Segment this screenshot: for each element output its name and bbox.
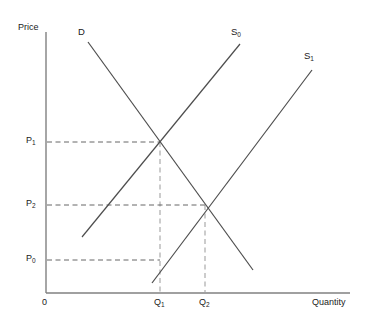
curve-label-s1: S1 — [304, 51, 314, 61]
quantity-tick-q1-text: Q — [154, 297, 161, 307]
quantity-tick-q2: Q2 — [199, 298, 210, 307]
supply-curve-s1 — [152, 70, 312, 283]
price-tick-p1: P1 — [26, 136, 36, 145]
quantity-tick-q2-text: Q — [199, 297, 206, 307]
price-tick-p2-sub: 2 — [32, 202, 36, 209]
demand-curve — [88, 42, 253, 270]
curve-label-d-text: D — [78, 26, 85, 37]
supply-curve-s0 — [82, 44, 240, 237]
curve-label-s1-sub: 1 — [310, 55, 314, 62]
y-axis-title: Price — [18, 23, 39, 32]
x-axis-title: Quantity — [312, 298, 346, 307]
price-tick-p1-sub: 1 — [32, 139, 36, 146]
quantity-tick-q2-sub: 2 — [206, 301, 210, 308]
plot-area — [0, 0, 370, 325]
curve-label-s0-sub: 0 — [237, 31, 241, 38]
origin-label: 0 — [42, 298, 47, 307]
price-tick-p0: P0 — [26, 254, 36, 263]
curve-label-d: D — [78, 27, 85, 37]
price-tick-p2: P2 — [26, 199, 36, 208]
quantity-tick-q1-sub: 1 — [161, 301, 165, 308]
quantity-tick-q1: Q1 — [154, 298, 165, 307]
curve-label-s0: S0 — [231, 27, 241, 37]
price-tick-p0-sub: 0 — [32, 257, 36, 264]
supply-demand-diagram: Price Quantity 0 P1 P2 P0 Q1 Q2 D S0 S1 — [0, 0, 370, 325]
